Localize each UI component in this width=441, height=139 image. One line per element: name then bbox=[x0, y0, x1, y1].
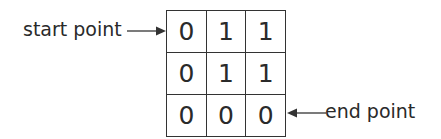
binary-grid: 0 1 1 0 1 1 0 0 0 bbox=[166, 10, 286, 137]
end-point-label: end point bbox=[325, 102, 415, 121]
grid-cell: 1 bbox=[246, 53, 286, 95]
grid-row: 0 1 1 bbox=[167, 11, 286, 53]
arrow-left-icon bbox=[287, 108, 326, 118]
grid-cell: 0 bbox=[167, 11, 207, 53]
start-point-label: start point bbox=[23, 20, 122, 39]
grid-cell: 1 bbox=[206, 53, 246, 95]
grid-cell: 0 bbox=[167, 53, 207, 95]
grid-cell: 0 bbox=[167, 95, 207, 137]
grid-cell: 1 bbox=[246, 11, 286, 53]
grid-cell: 0 bbox=[246, 95, 286, 137]
grid-row: 0 1 1 bbox=[167, 53, 286, 95]
grid-cell: 0 bbox=[206, 95, 246, 137]
grid-row: 0 0 0 bbox=[167, 95, 286, 137]
grid-cell: 1 bbox=[206, 11, 246, 53]
arrow-right-icon bbox=[127, 26, 166, 36]
